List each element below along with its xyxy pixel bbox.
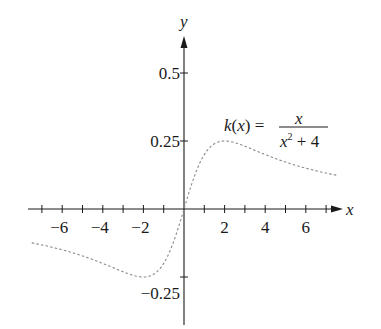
- x-tick-label: −6: [50, 218, 68, 237]
- x-tick-label: −4: [91, 218, 110, 237]
- function-label-numerator: x: [294, 109, 303, 128]
- y-tick-label: 0.5: [159, 64, 180, 83]
- y-tick-label: 0.25: [150, 132, 180, 151]
- axis-tick-labels: −6−4−22460.50.25−0.25: [50, 64, 310, 303]
- x-tick-label: 4: [261, 218, 270, 237]
- function-label: k(x) = x x2 + 4: [224, 109, 328, 151]
- x-tick-label: 6: [302, 218, 311, 237]
- x-axis-label: x: [345, 200, 354, 219]
- function-label-denominator: x2 + 4: [279, 131, 320, 151]
- x-tick-label: −2: [131, 218, 149, 237]
- y-axis-arrow-icon: [181, 36, 188, 48]
- y-tick-label: −0.25: [141, 284, 180, 303]
- axes: [28, 36, 343, 325]
- function-plot: −6−4−22460.50.25−0.25 x y k(x) = x x2 + …: [0, 0, 381, 329]
- x-axis-arrow-icon: [331, 206, 343, 213]
- function-label-lhs: k(x) =: [224, 116, 264, 135]
- x-tick-label: 2: [220, 218, 229, 237]
- y-axis-label: y: [178, 12, 188, 31]
